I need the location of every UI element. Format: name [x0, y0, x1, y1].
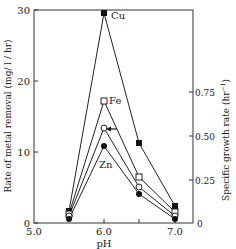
- x-axis: [104, 219, 175, 223]
- x-tick-6: 6.0: [96, 226, 112, 237]
- y-tick-30: 30: [17, 5, 30, 16]
- label-fe: Fe: [109, 95, 121, 106]
- x-tick-7: 7.0: [167, 226, 183, 237]
- line-cu: [69, 13, 175, 211]
- plot-frame: [34, 10, 193, 223]
- y2-tick-0: 0: [197, 219, 203, 229]
- y-axis-left: [34, 10, 38, 223]
- y-axis-right: [189, 92, 193, 180]
- markers-cu: [66, 10, 178, 214]
- series-lines: [69, 13, 175, 219]
- y2-tick-075: 0.75: [195, 88, 215, 98]
- x-tick-5: 5.0: [26, 226, 42, 237]
- arrow-icon: [106, 127, 117, 132]
- x-axis-label: pH: [96, 238, 111, 249]
- y2-axis-label: Specific growth rate (hr−1): [219, 79, 231, 201]
- y2-tick-050: 0.50: [195, 132, 215, 142]
- y-axis-label: Rate of metal removal (mg/ l / hr): [3, 39, 13, 192]
- y-tick-20: 20: [17, 76, 30, 87]
- line-zn: [69, 146, 175, 219]
- chart: 0 10 20 30 0 0.25 0.50 0.75 5.0 6.0 7.0 …: [0, 0, 236, 249]
- label-zn: Zn: [99, 159, 113, 170]
- label-cu: Cu: [111, 10, 126, 21]
- y2-tick-025: 0.25: [195, 176, 215, 186]
- y-tick-10: 10: [17, 147, 30, 158]
